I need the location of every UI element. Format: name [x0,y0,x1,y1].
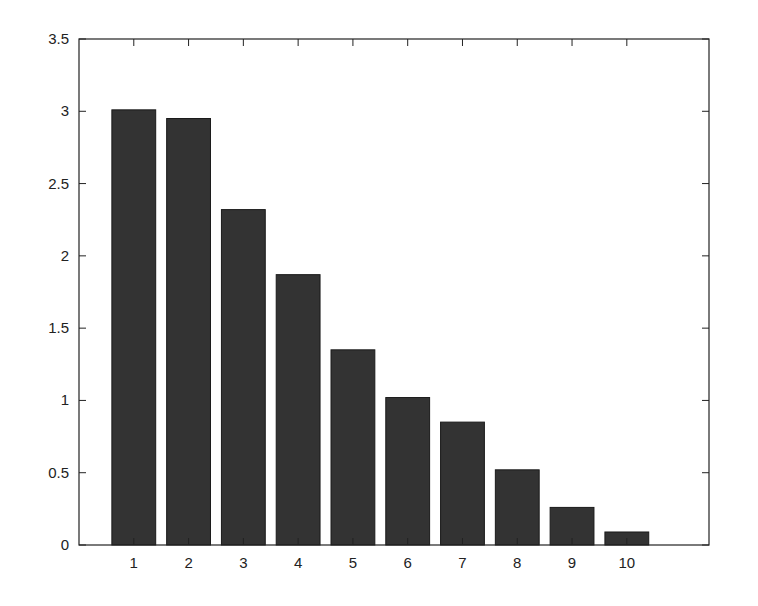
y-tick-label: 2 [61,247,69,264]
bar-2 [167,119,211,545]
bars [112,110,649,545]
y-tick-label: 2.5 [48,175,69,192]
bar-1 [112,110,156,545]
x-tick-label: 2 [184,554,192,571]
y-tick-label: 1 [61,391,69,408]
bar-8 [495,470,539,545]
y-tick-label: 3 [61,102,69,119]
y-tick-label: 0.5 [48,464,69,481]
x-tick-label: 7 [458,554,466,571]
bar-7 [441,422,485,545]
bar-6 [386,398,430,545]
x-tick-label: 9 [568,554,576,571]
y-tick-label: 3.5 [48,30,69,47]
bar-3 [221,210,265,545]
bar-4 [276,275,320,545]
x-tick-label: 1 [130,554,138,571]
bar-chart: 00.511.522.533.5 12345678910 [0,0,758,606]
x-tick-label: 10 [618,554,635,571]
y-tick-label: 0 [61,536,69,553]
bar-5 [331,350,375,545]
x-tick-label: 8 [513,554,521,571]
x-tick-label: 4 [294,554,302,571]
x-tick-label: 5 [349,554,357,571]
x-tick-label: 3 [239,554,247,571]
x-tick-label: 6 [404,554,412,571]
y-tick-label: 1.5 [48,319,69,336]
